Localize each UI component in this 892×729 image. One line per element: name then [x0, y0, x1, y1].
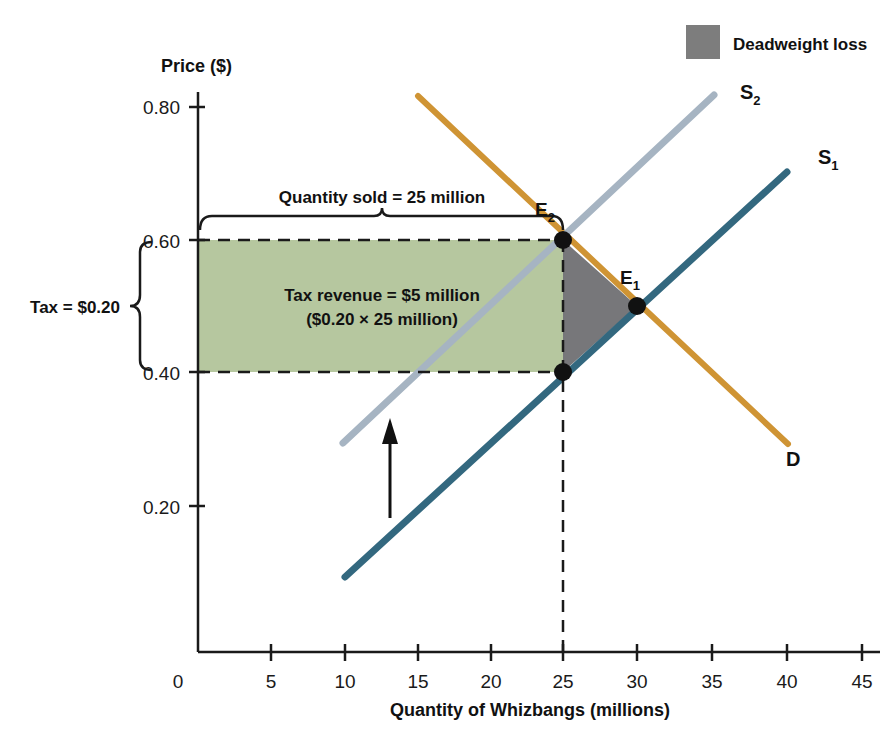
- deadweight-loss-chart: Deadweight loss 0.80 0.60 0.40 0.20 5 10…: [0, 0, 892, 729]
- x-tick-label-7: 40: [776, 671, 797, 692]
- x-tick-label-1: 10: [334, 671, 355, 692]
- y-tick-label-2: 0.40: [143, 363, 180, 384]
- chart-svg: Deadweight loss 0.80 0.60 0.40 0.20 5 10…: [0, 0, 892, 729]
- equilibrium-point-e1: [628, 297, 646, 315]
- x-tick-label-8: 45: [851, 671, 872, 692]
- x-tick-label-2: 15: [407, 671, 428, 692]
- equilibrium-label-e2: E2: [535, 199, 555, 225]
- supply-shift-arrow: [382, 418, 398, 518]
- x-axis-title: Quantity of Whizbangs (millions): [390, 700, 670, 720]
- legend-label-deadweight-loss: Deadweight loss: [733, 35, 867, 54]
- curve-label-d: D: [786, 448, 800, 470]
- curve-label-s1: S1: [818, 146, 839, 173]
- quantity-point-lower: [554, 363, 572, 381]
- origin-label: 0: [173, 671, 184, 692]
- tax-bracket-label: Tax = $0.20: [30, 298, 120, 317]
- tax-revenue-line2: ($0.20 × 25 million): [306, 310, 458, 329]
- x-tick-label-4: 25: [552, 671, 573, 692]
- tax-revenue-region: [198, 240, 563, 372]
- quantity-sold-brace: [200, 208, 563, 230]
- tax-revenue-line1: Tax revenue = $5 million: [284, 286, 480, 305]
- x-tick-label-6: 35: [701, 671, 722, 692]
- tax-bracket-brace: [130, 242, 152, 370]
- x-tick-label-3: 20: [480, 671, 501, 692]
- legend-swatch-deadweight-loss: [686, 25, 720, 59]
- curve-label-s2: S2: [740, 81, 761, 108]
- y-axis-title: Price ($): [161, 56, 232, 76]
- x-tick-label-5: 30: [626, 671, 647, 692]
- quantity-sold-label: Quantity sold = 25 million: [279, 188, 485, 207]
- legend: Deadweight loss: [686, 25, 867, 59]
- x-tick-label-0: 5: [266, 671, 277, 692]
- equilibrium-point-e2: [554, 231, 572, 249]
- deadweight-loss-region: [563, 240, 637, 372]
- y-tick-label-0: 0.80: [143, 97, 180, 118]
- y-tick-label-3: 0.20: [143, 497, 180, 518]
